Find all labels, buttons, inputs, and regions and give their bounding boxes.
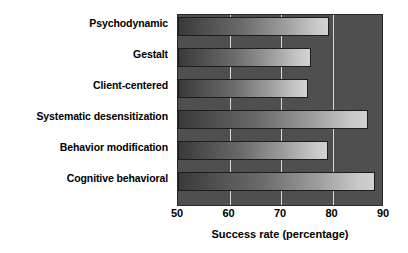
x-axis: 50 60 70 80 90 xyxy=(177,207,383,223)
x-tick-90: 90 xyxy=(377,207,389,220)
x-tick-60: 60 xyxy=(222,207,234,220)
category-label-psychodynamic: Psychodynamic xyxy=(0,18,168,29)
x-tick-70: 70 xyxy=(274,207,286,220)
x-axis-title: Success rate (percentage) xyxy=(177,228,383,240)
bar-cognitive-behavioral xyxy=(178,172,375,191)
x-tick-50: 50 xyxy=(171,207,183,220)
category-label-cognitive-behavioral: Cognitive behavioral xyxy=(0,173,168,184)
bar-client-centered xyxy=(178,79,308,98)
category-label-systematic-desensitization: Systematic desensitization xyxy=(0,111,168,122)
bar-systematic-desensitization xyxy=(178,110,368,129)
plot-area xyxy=(177,14,383,206)
x-tick-80: 80 xyxy=(325,207,337,220)
bar-psychodynamic xyxy=(178,17,329,36)
category-axis: Psychodynamic Gestalt Client-centered Sy… xyxy=(0,14,174,206)
category-label-client-centered: Client-centered xyxy=(0,80,168,91)
bar-behavior-modification xyxy=(178,141,328,160)
category-label-behavior-modification: Behavior modification xyxy=(0,142,168,153)
bar-gestalt xyxy=(178,48,311,67)
bar-chart: Psychodynamic Gestalt Client-centered Sy… xyxy=(0,0,408,253)
category-label-gestalt: Gestalt xyxy=(0,49,168,60)
